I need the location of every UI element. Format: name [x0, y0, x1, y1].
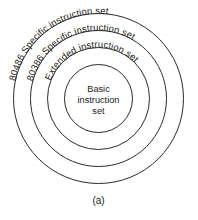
concentric-rings-diagram: 80486 Specific instruction set 80386 Spe… — [0, 0, 198, 220]
core-label-line-1: Basic — [87, 84, 110, 94]
figure-caption: (a) — [92, 195, 104, 206]
core-label-line-2: instruction — [78, 95, 120, 105]
figure-container: 80486 Specific instruction set 80386 Spe… — [0, 0, 198, 220]
core-label-line-3: set — [92, 106, 105, 116]
